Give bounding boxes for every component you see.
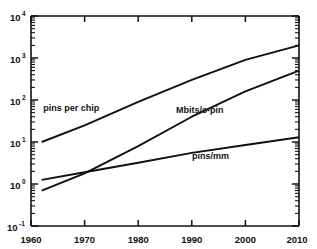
- x-tick-label: 2010: [286, 234, 307, 245]
- y-tick-label-base: 10: [10, 138, 21, 149]
- y-tick-label-base: 10: [10, 96, 21, 107]
- y-tick-label-exp: 1: [22, 136, 26, 143]
- series-annotations: pins per chipMbits/s-pinpins/mm: [43, 103, 229, 161]
- y-minor-ticks: [31, 18, 299, 213]
- y-tick-labels: 10 4 10 3 10 2 10 1 10 0 10 -1: [7, 10, 26, 233]
- y-tick-label-exp: 3: [22, 52, 26, 59]
- x-major-ticks: [31, 16, 299, 226]
- x-tick-label: 1960: [20, 234, 41, 245]
- y-tick-label-exp: 0: [22, 178, 26, 185]
- x-tick-label: 1980: [128, 234, 149, 245]
- y-major-ticks: [31, 16, 299, 226]
- series-annotation-pins-per-chip: pins per chip: [43, 103, 100, 113]
- y-tick-label-base: 10: [10, 12, 21, 23]
- chart-figure: 10 4 10 3 10 2 10 1 10 0 10 -1 1960 1970…: [0, 0, 317, 249]
- series-line-pins-mm: [42, 137, 299, 180]
- x-tick-labels: 1960 1970 1980 1990 2000 2010: [20, 234, 307, 245]
- x-tick-label: 2000: [235, 234, 256, 245]
- y-tick-label-exp: -1: [19, 220, 25, 227]
- x-tick-label: 1970: [74, 234, 95, 245]
- y-tick-label-base: 10: [10, 54, 21, 65]
- series-lines: [42, 45, 299, 190]
- y-tick-label-exp: 4: [22, 10, 26, 17]
- chart-plot-area: 10 4 10 3 10 2 10 1 10 0 10 -1 1960 1970…: [0, 0, 317, 249]
- series-annotation-pins-mm: pins/mm: [192, 151, 229, 161]
- y-tick-label-base: 10: [7, 222, 18, 233]
- axis-frame: [31, 16, 299, 226]
- series-annotation-mbits-s-pin: Mbits/s-pin: [176, 105, 224, 115]
- y-tick-label-exp: 2: [22, 94, 26, 101]
- x-tick-label: 1990: [181, 234, 202, 245]
- y-tick-label-base: 10: [10, 180, 21, 191]
